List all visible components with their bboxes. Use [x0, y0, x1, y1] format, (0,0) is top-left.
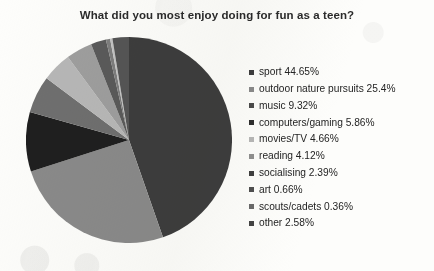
chart-title: What did you most enjoy doing for fun as…: [0, 9, 434, 21]
legend-item: scouts/cadets 0.36%: [249, 198, 396, 215]
legend-item: computers/gaming 5.86%: [249, 114, 396, 131]
legend-color-swatch: [249, 187, 254, 192]
legend-item-label: reading 4.12%: [259, 151, 325, 161]
legend-color-swatch: [249, 137, 254, 142]
chart-legend: sport 44.65%outdoor nature pursuits 25.4…: [249, 64, 396, 232]
legend-item: other 2.58%: [249, 215, 396, 232]
legend-item-label: sport 44.65%: [259, 67, 319, 77]
legend-item-label: other 2.58%: [259, 218, 314, 228]
legend-color-swatch: [249, 87, 254, 92]
legend-item-label: music 9.32%: [259, 101, 317, 111]
pie-chart: [26, 37, 232, 243]
legend-color-swatch: [249, 221, 254, 226]
legend-color-swatch: [249, 103, 254, 108]
legend-item-label: outdoor nature pursuits 25.4%: [259, 84, 396, 94]
legend-color-swatch: [249, 70, 254, 75]
legend-item: outdoor nature pursuits 25.4%: [249, 81, 396, 98]
pie-slice-group: [26, 37, 232, 243]
legend-item: reading 4.12%: [249, 148, 396, 165]
legend-color-swatch: [249, 171, 254, 176]
legend-item-label: computers/gaming 5.86%: [259, 118, 375, 128]
legend-item-label: movies/TV 4.66%: [259, 134, 339, 144]
legend-color-swatch: [249, 204, 254, 209]
legend-item-label: scouts/cadets 0.36%: [259, 202, 353, 212]
legend-item-label: art 0.66%: [259, 185, 303, 195]
legend-color-swatch: [249, 120, 254, 125]
legend-item: movies/TV 4.66%: [249, 131, 396, 148]
legend-item: sport 44.65%: [249, 64, 396, 81]
legend-item-label: socialising 2.39%: [259, 168, 338, 178]
legend-item: music 9.32%: [249, 98, 396, 115]
legend-item: socialising 2.39%: [249, 165, 396, 182]
legend-item: art 0.66%: [249, 182, 396, 199]
legend-color-swatch: [249, 154, 254, 159]
